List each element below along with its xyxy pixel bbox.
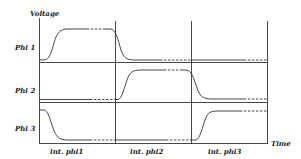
phi3-rise bbox=[191, 111, 240, 140]
signal-label-phi1: Phi 1 bbox=[15, 44, 35, 51]
signal-label-phi3: Phi 3 bbox=[15, 125, 35, 132]
phi1-waveform bbox=[40, 29, 87, 60]
timing-diagram-graphic bbox=[0, 0, 301, 159]
signal-label-phi2: Phi 2 bbox=[15, 87, 35, 94]
phi1-fall bbox=[104, 29, 160, 60]
phi2-rise bbox=[115, 70, 164, 100]
x-axis-label: Time bbox=[271, 140, 291, 147]
timing-diagram: Voltage Time Phi 1 Phi 2 Phi 3 int. phi1… bbox=[0, 0, 301, 159]
interval-label-phi2: int. phi2 bbox=[130, 148, 163, 155]
interval-label-phi3: int. phi3 bbox=[208, 148, 241, 155]
interval-label-phi1: int. phi1 bbox=[50, 148, 83, 155]
phi2-fall bbox=[180, 70, 244, 99]
y-axis-label: Voltage bbox=[30, 10, 59, 17]
phi3-fall bbox=[40, 110, 90, 140]
